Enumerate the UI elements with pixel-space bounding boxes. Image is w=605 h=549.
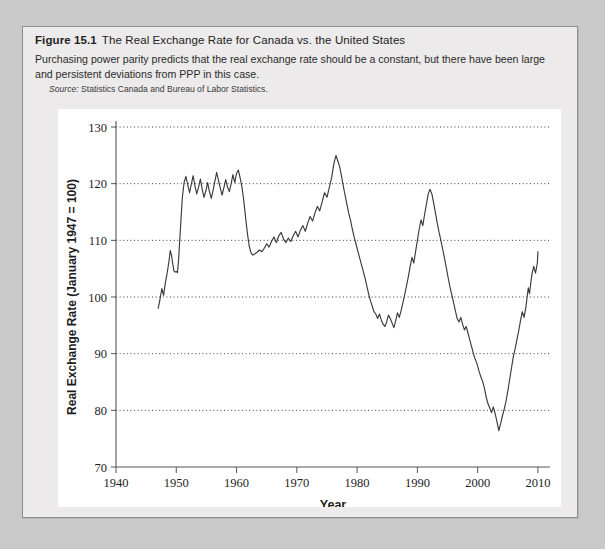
y-tick-label: 90: [95, 347, 108, 361]
x-tick-label: 2010: [525, 476, 550, 490]
y-axis-title: Real Exchange Rate (January 1947 = 100): [65, 179, 79, 415]
figure-source-label: Source:: [49, 84, 79, 94]
y-tick-label: 100: [88, 291, 107, 305]
x-tick-label: 1980: [345, 476, 370, 490]
figure-caption: Purchasing power parity predicts that th…: [35, 52, 565, 82]
x-tick-label: 1940: [104, 476, 129, 490]
x-axis-title: Year: [320, 498, 347, 507]
x-tick-label: 1950: [164, 476, 189, 490]
x-tick-label: 1990: [405, 476, 430, 490]
y-tick-label: 80: [95, 404, 108, 418]
figure-source: Source: Statistics Canada and Bureau of …: [49, 84, 268, 94]
chart-plot-area: 708090100110120130 194019501960197019801…: [58, 109, 561, 507]
y-axis-group: 708090100110120130: [88, 121, 116, 475]
y-tick-label: 130: [88, 121, 107, 135]
x-tick-label: 1970: [284, 476, 309, 490]
x-tick-label: 1960: [224, 476, 249, 490]
figure-number: Figure 15.1: [35, 34, 97, 46]
page-top-bleed-text: .: [250, 0, 550, 6]
y-tick-label: 120: [88, 177, 107, 191]
y-tick-label: 70: [95, 461, 108, 475]
y-tick-label: 110: [89, 234, 107, 248]
x-tick-label: 2000: [465, 476, 490, 490]
page-canvas: . Figure 15.1The Real Exchange Rate for …: [0, 0, 605, 549]
series-line-real-exchange-rate: [158, 155, 538, 430]
figure-title-text: The Real Exchange Rate for Canada vs. th…: [102, 34, 405, 46]
x-axis-group: 19401950196019701980199020002010: [104, 467, 551, 490]
real-exchange-rate-line-chart: 708090100110120130 194019501960197019801…: [58, 109, 561, 507]
figure-title: Figure 15.1The Real Exchange Rate for Ca…: [35, 34, 405, 46]
figure-box: Figure 15.1The Real Exchange Rate for Ca…: [22, 26, 578, 518]
figure-source-text: Statistics Canada and Bureau of Labor St…: [81, 84, 268, 94]
